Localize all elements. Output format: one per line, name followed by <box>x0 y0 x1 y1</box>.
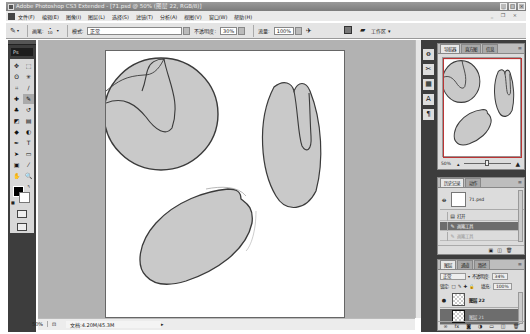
tab-layers[interactable]: 图层 <box>440 260 456 269</box>
magic-wand-tool-icon[interactable]: ✳ <box>23 72 34 82</box>
blend-mode-select[interactable]: 正常 <box>440 273 466 280</box>
lock-transparency-icon[interactable]: □ <box>452 284 456 289</box>
quick-mask-icon[interactable] <box>17 210 27 218</box>
new-group-icon[interactable]: ▭ <box>489 323 494 329</box>
type-tool-icon[interactable]: T <box>23 138 34 148</box>
lock-all-icon[interactable]: 🔒 <box>469 284 475 289</box>
fill-input[interactable]: 100% <box>493 283 512 290</box>
history-state-brush-selected[interactable]: ✎ 画笔工具 <box>440 222 518 231</box>
mode-dropdown-icon[interactable] <box>183 27 190 35</box>
tool-preset-picker[interactable]: ✎▾ <box>10 27 19 35</box>
menu-analysis[interactable]: 分析(A) <box>160 13 177 20</box>
tool-presets-panel-icon[interactable]: ✂ <box>423 64 434 75</box>
layer-row-22[interactable]: ● 图层 22 <box>440 292 520 308</box>
blend-mode-dropdown-icon[interactable]: ▾ <box>468 274 470 279</box>
pen-tool-icon[interactable]: ✒ <box>11 138 22 148</box>
menu-file[interactable]: 文件(F) <box>18 13 35 20</box>
background-color-swatch[interactable] <box>19 192 30 203</box>
panel-menu-icon[interactable]: ≡ <box>518 179 522 185</box>
eraser-tool-icon[interactable]: ◩ <box>11 116 22 126</box>
create-snapshot-icon[interactable]: ◫ <box>497 247 502 253</box>
new-layer-icon[interactable]: ◫ <box>501 323 506 329</box>
slice-tool-icon[interactable]: ∕ <box>23 83 34 93</box>
menu-view[interactable]: 视图(V) <box>184 13 201 20</box>
document-window-controls[interactable]: _ ❐ × <box>491 12 520 18</box>
notes-tool-icon[interactable]: ▣ <box>11 160 22 170</box>
healing-brush-tool-icon[interactable]: ✚ <box>11 94 22 104</box>
status-info-icon[interactable]: ⊡ <box>48 321 66 327</box>
eyedropper-tool-icon[interactable]: ⁄ <box>23 160 34 170</box>
blur-tool-icon[interactable]: ◆ <box>11 127 22 137</box>
lasso-tool-icon[interactable]: ʘ <box>11 72 22 82</box>
canvas-area[interactable] <box>38 40 415 318</box>
menu-image[interactable]: 图像(I) <box>66 13 81 20</box>
history-brush-source-cell[interactable] <box>440 222 448 231</box>
tab-paths[interactable]: 路径 <box>474 260 490 269</box>
flow-input[interactable]: 100% <box>274 27 294 35</box>
fx-icon[interactable]: fx <box>455 323 460 329</box>
panel-menu-icon[interactable]: ≡ <box>518 261 522 267</box>
shape-tool-icon[interactable]: ▭ <box>23 149 34 159</box>
menu-layer[interactable]: 图层(L) <box>88 13 105 20</box>
navigator-zoom-slider[interactable] <box>464 163 512 164</box>
adjustment-layer-icon[interactable]: ◑ <box>478 323 482 329</box>
default-colors-icon[interactable]: ■ <box>11 200 15 205</box>
visibility-eye-icon[interactable]: ● <box>440 297 448 303</box>
menu-edit[interactable]: 编辑(E) <box>42 13 59 20</box>
brush-tool-icon[interactable]: ✎ <box>23 94 34 104</box>
dock-grip[interactable] <box>421 40 436 46</box>
menu-select[interactable]: 选择(S) <box>112 13 129 20</box>
history-brush-panel-icon[interactable]: ꝋ <box>423 49 434 60</box>
document-canvas[interactable] <box>105 50 345 318</box>
workspace-menu[interactable]: 工作区 ▾ <box>371 27 390 34</box>
history-brush-tool-icon[interactable]: ↺ <box>23 105 34 115</box>
brush-dropdown-arrow[interactable]: ▾ <box>57 28 59 33</box>
history-brush-source-cell[interactable] <box>440 232 448 241</box>
tab-history[interactable]: 历史记录 <box>440 178 464 187</box>
menu-help[interactable]: 帮助(H) <box>234 13 252 20</box>
history-state-brush-dimmed[interactable]: ✎ 画笔工具 <box>440 232 518 241</box>
status-menu-arrow-icon[interactable]: ▸ <box>161 321 171 327</box>
tab-histogram[interactable]: 直方图 <box>461 44 481 53</box>
paragraph-panel-icon[interactable]: ¶ <box>423 109 434 120</box>
gradient-tool-icon[interactable]: ▤ <box>23 116 34 126</box>
flow-control[interactable]: 100% <box>274 27 302 35</box>
dodge-tool-icon[interactable]: ◐ <box>23 127 34 137</box>
link-layers-icon[interactable]: ∞ <box>443 323 447 329</box>
character-panel-icon[interactable]: A <box>423 94 434 105</box>
swap-colors-icon[interactable]: ↰ <box>27 184 30 189</box>
history-scrollbar[interactable] <box>518 190 523 242</box>
layers-scrollbar[interactable] <box>518 292 523 324</box>
delete-layer-icon[interactable]: 🗑 <box>513 323 519 329</box>
zoom-out-icon[interactable]: ▴ <box>457 161 460 167</box>
path-selection-tool-icon[interactable]: ➤ <box>11 149 22 159</box>
opacity-control[interactable]: 30% <box>220 27 245 35</box>
tab-navigator[interactable]: 导航器 <box>440 44 460 53</box>
maximize-button[interactable]: □ <box>509 3 516 10</box>
opacity-slider-icon[interactable] <box>238 27 245 35</box>
zoom-in-icon[interactable]: ▲ <box>515 160 520 167</box>
crop-tool-icon[interactable]: ⌗ <box>11 83 22 93</box>
delete-state-icon[interactable]: 🗑 <box>506 247 512 253</box>
close-button[interactable]: × <box>518 3 525 10</box>
tab-channels[interactable]: 通道 <box>457 260 473 269</box>
menu-filter[interactable]: 滤镜(T) <box>136 13 153 20</box>
history-brush-source-cell[interactable] <box>440 212 448 221</box>
layer-opacity-input[interactable]: 34% <box>492 273 508 280</box>
panel-menu-icon[interactable]: ≡ <box>518 45 522 51</box>
lock-pixels-icon[interactable]: ✎ <box>458 284 462 289</box>
brush-size-picker[interactable]: • 10 <box>48 27 53 35</box>
new-document-from-state-icon[interactable]: ▣ <box>489 247 494 253</box>
screen-mode-icon[interactable] <box>17 223 27 231</box>
lock-position-icon[interactable]: ✚ <box>464 284 468 289</box>
history-source-icon[interactable]: ꝋ <box>440 196 448 203</box>
bridge-icon[interactable]: ▰ <box>360 26 365 34</box>
tools-panel-grip[interactable] <box>8 40 36 45</box>
move-tool-icon[interactable]: ✥ <box>11 61 22 71</box>
tab-actions[interactable]: 动作 <box>465 178 481 187</box>
history-snapshot[interactable]: ꝋ 71.psd <box>440 190 524 210</box>
marquee-tool-icon[interactable]: ⬚ <box>23 61 34 71</box>
navigator-thumbnail[interactable] <box>442 57 521 157</box>
opacity-input[interactable]: 30% <box>220 27 237 35</box>
slider-knob[interactable] <box>485 160 489 166</box>
